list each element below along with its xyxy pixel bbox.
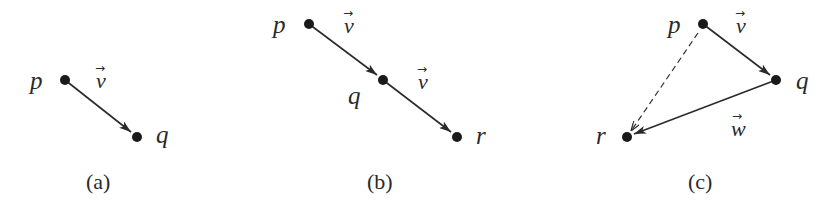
vector-label-v1: v → — [343, 6, 354, 38]
label-p: p — [28, 67, 43, 94]
vector-arrow-accent-icon: → — [343, 6, 353, 20]
vector-w-arrow — [634, 80, 776, 134]
point-r — [452, 132, 462, 142]
panel-c: p q r v → w → (c) — [596, 6, 809, 194]
label-q: q — [348, 82, 361, 109]
caption-c: (c) — [688, 169, 712, 194]
label-p: p — [271, 11, 286, 38]
vector-arrow-accent-icon: → — [417, 62, 427, 76]
label-p: p — [666, 11, 681, 38]
vector-arrow-accent-icon: → — [95, 61, 105, 75]
point-p — [304, 19, 314, 29]
point-q — [132, 132, 142, 142]
vector-arrow-accent-icon: → — [732, 109, 742, 123]
panel-a: p q v → (a) — [28, 61, 169, 194]
label-q: q — [796, 67, 809, 94]
label-q: q — [156, 121, 169, 148]
panel-b: p q r v → v → (b) — [271, 6, 486, 194]
vector-label-v: v → — [735, 6, 746, 38]
caption-a: (a) — [86, 169, 110, 194]
vector-label-w: w → — [731, 109, 746, 141]
vector-v2-arrow — [383, 80, 451, 132]
vector-sum-dashed-arrow — [631, 33, 698, 131]
vector-v1-arrow — [309, 24, 377, 75]
point-r — [622, 132, 632, 142]
label-r: r — [476, 122, 486, 149]
label-r: r — [596, 122, 606, 149]
point-p — [60, 75, 70, 85]
vector-label-v: v → — [95, 61, 106, 93]
vector-label-v2: v → — [417, 62, 428, 94]
point-q — [771, 75, 781, 85]
point-p — [698, 19, 708, 29]
caption-b: (b) — [367, 169, 393, 194]
point-q — [378, 75, 388, 85]
vector-arrow-accent-icon: → — [735, 6, 745, 20]
vector-diagram: p q v → (a) p q r v → v → (b) p — [0, 0, 837, 207]
